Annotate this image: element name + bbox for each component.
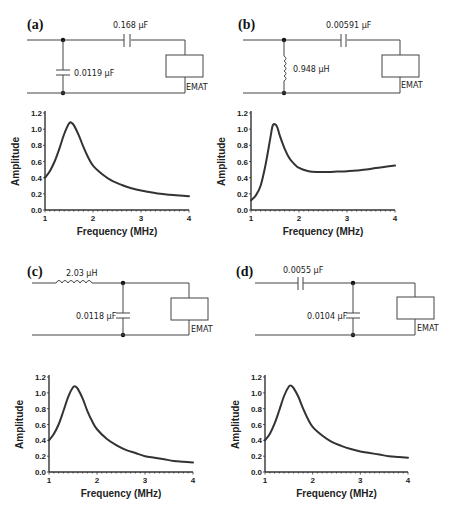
chart-a: 0.00.20.40.60.81.01.21234Frequency (MHz)… [10, 109, 192, 237]
y-tick-label: 1.2 [35, 373, 47, 382]
y-tick-label: 0.4 [35, 436, 47, 445]
panel-label-d: (d) [236, 264, 253, 280]
y-tick-label: 1.0 [31, 125, 43, 134]
x-tick-label: 2 [297, 214, 302, 223]
x-tick-label: 4 [187, 214, 192, 223]
y-tick-label: 1.0 [251, 389, 263, 398]
x-tick-label: 1 [263, 476, 268, 485]
chart-c: 0.00.20.40.60.81.01.21234Frequency (MHz)… [14, 373, 196, 499]
y-tick-label: 0.0 [237, 206, 249, 215]
amplitude-curve [45, 122, 189, 196]
x-axis-title: Frequency (MHz) [77, 226, 158, 237]
y-tick-label: 0.4 [237, 174, 249, 183]
circuit-c: (c) 2.03 µH 0.0118 µF EMAT [27, 264, 213, 337]
amplitude-curve [265, 385, 408, 457]
y-tick-label: 0.2 [35, 452, 47, 461]
x-tick-label: 3 [139, 214, 144, 223]
series-component-label-d: 0.0055 µF [283, 266, 324, 275]
y-tick-label: 0.0 [251, 468, 263, 477]
emat-label-a: EMAT [186, 83, 208, 92]
y-tick-label: 0.6 [35, 421, 47, 430]
emat-label-d: EMAT [417, 324, 439, 333]
y-tick-label: 1.0 [35, 389, 47, 398]
x-tick-label: 2 [310, 476, 315, 485]
x-tick-label: 4 [393, 214, 398, 223]
chart-b: 0.00.20.40.60.81.01.21234Frequency (MHz)… [216, 109, 398, 237]
figure-canvas: (a) 0.168 µF 0.0119 µF EMAT (b) [0, 0, 451, 513]
charts-layer: 0.00.20.40.60.81.01.21234Frequency (MHz)… [10, 109, 411, 499]
x-tick-label: 3 [345, 214, 350, 223]
panel-label-b: (b) [238, 17, 255, 33]
capacitor-icon [56, 70, 70, 75]
y-axis-title: Amplitude [10, 137, 21, 186]
y-tick-label: 1.2 [251, 373, 263, 382]
y-tick-label: 0.6 [251, 421, 263, 430]
y-tick-label: 0.4 [251, 436, 263, 445]
x-axis-title: Frequency (MHz) [296, 488, 377, 499]
y-tick-label: 1.0 [237, 125, 249, 134]
x-tick-label: 1 [249, 214, 254, 223]
emat-label-b: EMAT [401, 81, 423, 90]
shunt-component-label-b: 0.948 µH [293, 65, 330, 74]
y-tick-label: 1.2 [237, 109, 249, 118]
shunt-component-label-a: 0.0119 µF [74, 69, 115, 78]
y-tick-label: 0.0 [31, 206, 43, 215]
capacitor-icon [341, 34, 346, 47]
series-component-label-c: 2.03 µH [66, 269, 97, 278]
emat-box [166, 55, 203, 77]
x-tick-label: 3 [143, 476, 148, 485]
y-tick-label: 0.6 [237, 158, 249, 167]
inductor-icon [284, 56, 286, 81]
x-tick-label: 4 [406, 476, 411, 485]
capacitor-icon [124, 34, 130, 47]
series-component-label-b: 0.00591 µF [326, 21, 372, 30]
y-tick-label: 0.2 [237, 190, 249, 199]
y-tick-label: 0.8 [35, 405, 47, 414]
series-component-label-a: 0.168 µF [113, 21, 149, 30]
capacitor-icon [298, 277, 303, 290]
x-tick-label: 2 [91, 214, 96, 223]
x-axis-title: Frequency (MHz) [283, 226, 364, 237]
y-tick-label: 0.2 [251, 452, 263, 461]
x-tick-label: 4 [191, 476, 196, 485]
panel-label-a: (a) [27, 17, 44, 33]
chart-d: 0.00.20.40.60.81.01.21234Frequency (MHz)… [230, 373, 411, 499]
y-tick-label: 0.6 [31, 158, 43, 167]
y-tick-label: 0.8 [31, 141, 43, 150]
amplitude-curve [251, 124, 395, 200]
emat-box [397, 297, 434, 319]
shunt-component-label-d: 0.0104 µF [307, 312, 348, 321]
y-tick-label: 1.2 [31, 109, 43, 118]
y-axis-title: Amplitude [216, 137, 227, 186]
capacitor-icon [116, 313, 130, 318]
emat-box [382, 55, 419, 77]
inductor-icon [56, 281, 92, 284]
amplitude-curve [49, 386, 193, 462]
panel-label-c: (c) [27, 264, 43, 280]
x-axis-title: Frequency (MHz) [81, 488, 162, 499]
capacitor-icon [346, 313, 360, 318]
x-tick-label: 3 [358, 476, 363, 485]
x-tick-label: 1 [43, 214, 48, 223]
shunt-component-label-c: 0.0118 µF [76, 312, 117, 321]
y-tick-label: 0.4 [31, 174, 43, 183]
y-tick-label: 0.2 [31, 190, 43, 199]
emat-box [171, 298, 208, 320]
circuit-a: (a) 0.168 µF 0.0119 µF EMAT [27, 17, 208, 95]
y-tick-label: 0.8 [251, 405, 263, 414]
emat-label-c: EMAT [191, 325, 213, 334]
circuit-d: (d) 0.0055 µF 0.0104 µF EMAT [236, 264, 439, 337]
y-tick-label: 0.0 [35, 468, 47, 477]
y-tick-label: 0.8 [237, 141, 249, 150]
x-tick-label: 1 [47, 476, 52, 485]
y-axis-title: Amplitude [230, 400, 241, 449]
x-tick-label: 2 [95, 476, 100, 485]
y-axis-title: Amplitude [14, 400, 25, 449]
circuit-b: (b) 0.00591 µF 0.948 µH EMAT [238, 17, 423, 95]
